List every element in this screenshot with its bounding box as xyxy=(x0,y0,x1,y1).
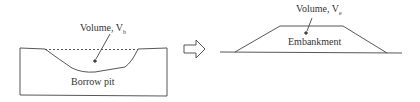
embankment-label: Embankment xyxy=(288,36,341,47)
ground-line xyxy=(220,52,402,53)
volume-b-leader xyxy=(96,34,110,59)
volume-b-dot xyxy=(94,60,97,63)
transfer-arrow-icon xyxy=(184,40,205,58)
volume-e-text: Volume, V xyxy=(296,3,339,14)
volume-e-label: Volume, Ve xyxy=(296,3,342,16)
volume-b-text: Volume, V xyxy=(80,22,123,33)
volume-e-subscript: e xyxy=(339,10,342,16)
volume-b-subscript: b xyxy=(123,29,126,35)
borrow-pit-label: Borrow pit xyxy=(71,76,115,87)
borrow-pit-excavation xyxy=(45,49,138,72)
volume-e-leader xyxy=(307,18,312,31)
volume-b-label: Volume, Vb xyxy=(80,22,126,35)
diagram-canvas xyxy=(0,0,420,102)
volume-e-dot xyxy=(305,32,308,35)
